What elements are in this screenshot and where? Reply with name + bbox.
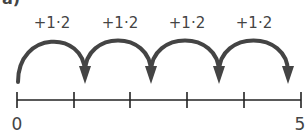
part-label: a) (2, 0, 20, 8)
jump-arc-1 (18, 42, 85, 82)
jump-arc-4 (219, 41, 288, 73)
jump-arcs (18, 41, 294, 85)
jump-diagram: a) +1·2 +1·2 +1·2 +1·2 0 5 (0, 0, 308, 135)
jump-labels: +1·2 +1·2 +1·2 +1·2 (34, 14, 272, 32)
jump-arc-3 (151, 41, 219, 73)
jump-arc-2 (85, 41, 151, 73)
end-label: 5 (295, 114, 306, 134)
number-line (17, 92, 301, 108)
jump-label-2: +1·2 (102, 14, 138, 32)
arrowhead-icon (282, 66, 294, 84)
jump-label-1: +1·2 (34, 14, 70, 32)
jump-label-3: +1·2 (169, 14, 205, 32)
jump-label-4: +1·2 (236, 14, 272, 32)
start-label: 0 (12, 114, 23, 134)
